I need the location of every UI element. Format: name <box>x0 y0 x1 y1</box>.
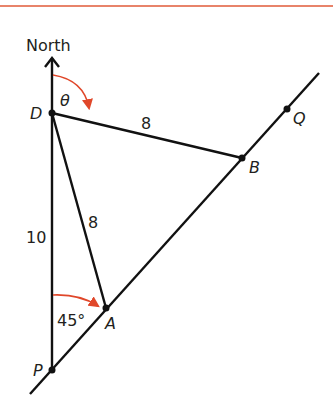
label-P: P <box>33 361 43 380</box>
point-B <box>239 155 246 162</box>
north-label: North <box>26 36 71 55</box>
theta-label: θ <box>60 91 70 110</box>
point-Q <box>284 106 291 113</box>
theta-arc <box>53 75 89 108</box>
label-DA-length: 8 <box>88 213 98 232</box>
label-DB-length: 8 <box>141 114 151 133</box>
label-angle-45: 45° <box>57 311 85 330</box>
point-A <box>103 305 110 312</box>
point-D <box>49 110 56 117</box>
label-DP-length: 10 <box>26 228 46 247</box>
bearing-diagram: North θ D 8 Q B 8 10 45° A P <box>0 0 333 413</box>
segment-DA <box>52 113 106 308</box>
point-P <box>49 367 56 374</box>
label-A: A <box>104 314 116 333</box>
angle-45-arc <box>53 295 98 306</box>
label-D: D <box>30 104 42 123</box>
label-B: B <box>249 158 260 177</box>
line-PQ <box>30 73 319 394</box>
label-Q: Q <box>293 109 306 128</box>
